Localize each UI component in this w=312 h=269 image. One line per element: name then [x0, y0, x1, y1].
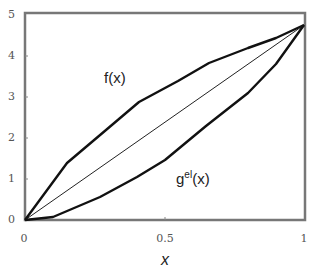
y-tick-label: 0 — [8, 213, 15, 226]
g-label-base: g — [176, 170, 184, 187]
y-tick-label: 1 — [8, 172, 15, 185]
y-tick-label: 2 — [8, 131, 15, 144]
y-tick-label: 5 — [8, 8, 15, 21]
y-tick-label: 4 — [8, 49, 15, 62]
f-curve-label: f(x) — [104, 69, 126, 86]
y-tick-label: 3 — [8, 90, 15, 103]
x-tick-label: 0.5 — [156, 232, 174, 245]
g-label-arg: (x) — [192, 170, 210, 187]
plot-frame — [25, 13, 305, 220]
line-chart: 0 1 2 3 4 5 0 0.5 1 x f(x) gel(x) — [0, 0, 312, 269]
g-label-sup: el — [184, 169, 192, 180]
x-tick-label: 0 — [21, 232, 28, 245]
x-tick-label: 1 — [301, 232, 308, 245]
g-el-curve-label: gel(x) — [176, 169, 210, 187]
x-axis-label: x — [160, 251, 170, 268]
